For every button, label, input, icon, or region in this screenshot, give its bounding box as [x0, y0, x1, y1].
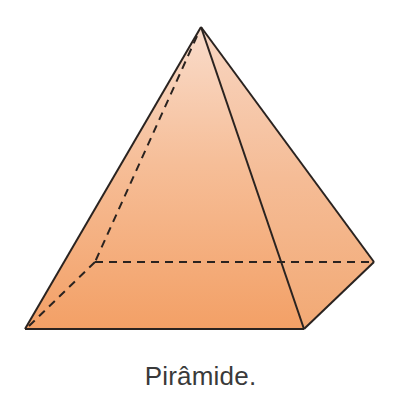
- figure-caption: Pirâmide.: [0, 361, 401, 392]
- pyramid-figure: [0, 0, 401, 398]
